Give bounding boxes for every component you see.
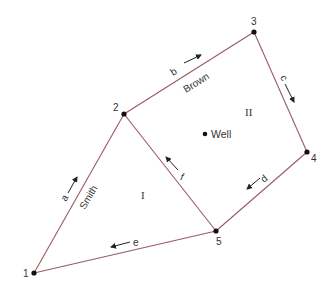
arrow-f-icon (166, 157, 178, 170)
arrow-a-icon (68, 177, 77, 193)
arrow-b-icon (184, 55, 201, 63)
loop-labels: I II (141, 106, 253, 201)
node-4-label: 4 (311, 153, 317, 164)
node-2 (121, 111, 126, 116)
edge-d (216, 152, 307, 231)
edge-labels: a Smith b Brown c d e f (58, 65, 290, 248)
node-2-label: 2 (113, 102, 119, 113)
edge-f (124, 114, 216, 231)
edge-d-label: d (258, 173, 269, 185)
node-4 (304, 149, 309, 154)
node-1-label: 1 (23, 268, 29, 279)
edge-c (254, 32, 307, 152)
edge-e-label: e (133, 237, 139, 248)
edge-a-name: Smith (77, 183, 99, 211)
edge-a-smith (34, 114, 124, 273)
well-marker-icon (203, 132, 208, 137)
edge-b-name: Brown (181, 70, 211, 94)
edge-f-label: f (180, 171, 186, 183)
node-5 (213, 228, 218, 233)
node-3-label: 3 (251, 16, 257, 27)
flow-arrows (68, 55, 294, 247)
loop-I-label: I (141, 189, 145, 201)
loop-II-label: II (245, 106, 253, 118)
arrow-d-icon (247, 178, 260, 189)
node-1 (31, 270, 36, 275)
arrow-c-icon (285, 84, 294, 102)
well: Well (203, 128, 232, 140)
node-5-label: 5 (216, 236, 222, 247)
edge-a-label: a (58, 192, 71, 203)
edge-e (34, 231, 216, 273)
node-3 (251, 29, 256, 34)
well-label: Well (211, 128, 231, 140)
arrow-e-icon (111, 242, 130, 247)
edge-b-label: b (168, 65, 179, 78)
node-labels: 1 2 3 4 5 (23, 16, 317, 279)
pipe-network-diagram: a Smith b Brown c d e f 1 2 3 4 5 I II W… (0, 0, 336, 295)
edge-c-label: c (278, 73, 290, 82)
edge-b-brown (124, 32, 254, 114)
